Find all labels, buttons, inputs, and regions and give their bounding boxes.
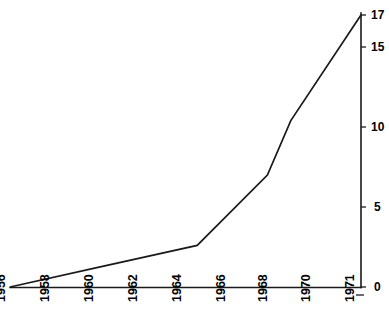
y-tick-label-10: 10 <box>371 121 384 133</box>
x-tick-label-1968: 1968 <box>257 274 270 302</box>
y-tick-label-5: 5 <box>374 201 381 213</box>
line-chart: 17 15 10 5 0 1956 1958 1960 1962 1964 19… <box>0 0 389 334</box>
data-series-line <box>10 15 361 287</box>
x-tick-label-1964: 1964 <box>171 274 184 302</box>
y-tick-label-15: 15 <box>371 41 384 53</box>
x-tick-label-1971: 1971 <box>344 274 357 302</box>
x-tick-label-1966: 1966 <box>215 274 228 302</box>
x-tick-label-1962: 1962 <box>127 274 140 302</box>
chart-canvas <box>0 0 389 334</box>
x-tick-label-1958: 1958 <box>39 274 52 302</box>
y-tick-label-17: 17 <box>371 9 384 21</box>
x-tick-label-1970: 1970 <box>300 274 313 302</box>
y-tick-label-0: 0 <box>374 281 381 293</box>
x-tick-label-1960: 1960 <box>83 274 96 302</box>
x-tick-label-1956: 1956 <box>0 274 8 302</box>
